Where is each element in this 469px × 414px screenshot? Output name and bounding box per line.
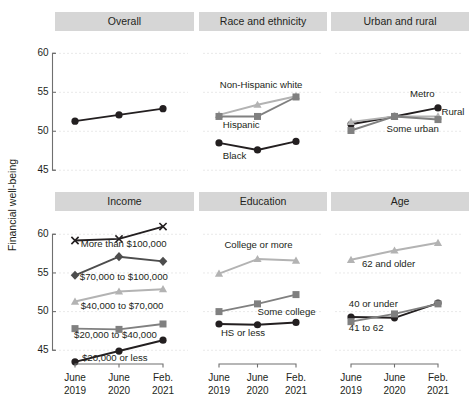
data-point (115, 252, 124, 261)
y-axis-row-1: 60555045 (37, 47, 56, 175)
series-label-hs-or-less: HS or less (221, 327, 265, 338)
data-point (348, 127, 355, 134)
x-tick-label-month: June (247, 372, 269, 383)
x-tick-label-year: 2019 (64, 385, 87, 396)
panel-title: Income (107, 195, 142, 207)
y-tick-label: 55 (37, 267, 49, 278)
data-point (216, 308, 223, 315)
data-point (293, 291, 300, 298)
panel-income: IncomeMore than $100,000$70,000 to $100,… (55, 192, 194, 365)
x-tick-label-year: 2021 (427, 385, 450, 396)
data-point (71, 271, 80, 280)
y-axis-title: Financial well-being (6, 159, 18, 251)
y-tick-label: 50 (37, 125, 49, 136)
series-label-black: Black (223, 150, 247, 161)
series-label-some-college: Some college (258, 306, 316, 317)
data-point (71, 118, 78, 125)
series-label-20-000-to-40-000: $20,000 to $40,000 (74, 329, 157, 340)
x-tick-label-year: 2020 (108, 385, 131, 396)
x-tick-label-month: June (108, 372, 130, 383)
x-axis-col-3: June2019June2020Feb.2021 (340, 364, 450, 396)
y-tick-label: 45 (37, 164, 49, 175)
financial-wellbeing-small-multiples-chart: OverallRace and ethnicityNon-Hispanic wh… (0, 0, 469, 414)
x-tick-label-year: 2020 (383, 385, 406, 396)
series-label-40-000-to-70-000: $40,000 to $70,000 (81, 300, 164, 311)
x-axis-col-2: June2019June2020Feb.2021 (208, 364, 308, 396)
y-axis-line (53, 234, 56, 350)
panel-overall: Overall (55, 12, 194, 170)
series-label-41-to-62: 41 to 62 (349, 322, 384, 333)
data-point (293, 93, 300, 100)
series-label-metro: Metro (410, 88, 435, 99)
panel-title: Education (240, 195, 287, 207)
panel-title: Overall (108, 15, 141, 27)
x-axis-col-1: June2019June2020Feb.2021 (64, 364, 175, 396)
x-tick-label-month: June (340, 372, 362, 383)
data-point (434, 239, 442, 246)
data-point (391, 310, 398, 317)
panel-urban-and-rural: Urban and ruralMetroRuralSome urban (331, 12, 469, 170)
series-label-college-or-more: College or more (224, 239, 292, 250)
data-point (435, 116, 442, 123)
y-tick-label: 45 (37, 344, 49, 355)
series-label-hispanic: Hispanic (223, 119, 260, 130)
data-point (115, 111, 122, 118)
y-tick-label: 55 (37, 86, 49, 97)
x-tick-label-month: Feb. (153, 372, 173, 383)
series-label-70-000-to-100-000: $70,000 to $100,000 (80, 271, 168, 282)
series-label-rural: Rural (441, 106, 464, 117)
data-point (435, 300, 442, 307)
y-tick-label: 50 (37, 305, 49, 316)
x-tick-label-month: Feb. (286, 372, 306, 383)
panel-title: Urban and rural (364, 15, 437, 27)
panel-title: Age (391, 195, 410, 207)
data-point (292, 138, 299, 145)
x-tick-label-month: June (64, 372, 86, 383)
data-point (216, 113, 223, 120)
x-tick-label-year: 2019 (340, 385, 363, 396)
y-tick-label: 60 (37, 47, 49, 58)
data-point (292, 319, 299, 326)
x-tick-label-month: Feb. (428, 372, 448, 383)
series-label-20-000-or-less: $20,000 or less (82, 352, 148, 363)
panel-age: Age62 and older40 or under41 to 62 (331, 192, 469, 350)
panel-education: EducationCollege or moreSome collegeHS o… (199, 192, 327, 350)
data-point (159, 337, 166, 344)
series-label-non-hispanic-white: Non-Hispanic white (220, 79, 303, 90)
x-tick-label-year: 2021 (152, 385, 175, 396)
x-tick-label-year: 2021 (285, 385, 308, 396)
series-label-some-urban: Some urban (387, 123, 439, 134)
series-label-40-or-under: 40 or under (349, 298, 399, 309)
series-label-62-and-older: 62 and older (362, 258, 416, 269)
x-tick-label-year: 2020 (246, 385, 269, 396)
chart-canvas: OverallRace and ethnicityNon-Hispanic wh… (0, 0, 469, 414)
y-axis-line (53, 53, 56, 170)
x-tick-label-month: June (208, 372, 230, 383)
x-tick-label-month: June (384, 372, 406, 383)
data-point (254, 146, 261, 153)
x-tick-label-year: 2019 (208, 385, 231, 396)
panel-title: Race and ethnicity (220, 15, 307, 27)
data-point (159, 257, 168, 266)
y-tick-label: 60 (37, 228, 49, 239)
series-label-more-than-100-000: More than $100,000 (81, 238, 167, 249)
panel-race-and-ethnicity: Race and ethnicityNon-Hispanic whiteHisp… (199, 12, 327, 170)
y-axis-row-2: 60555045 (37, 228, 56, 355)
data-point (215, 139, 222, 146)
data-point (159, 105, 166, 112)
data-point (391, 113, 398, 120)
data-point (160, 320, 167, 327)
